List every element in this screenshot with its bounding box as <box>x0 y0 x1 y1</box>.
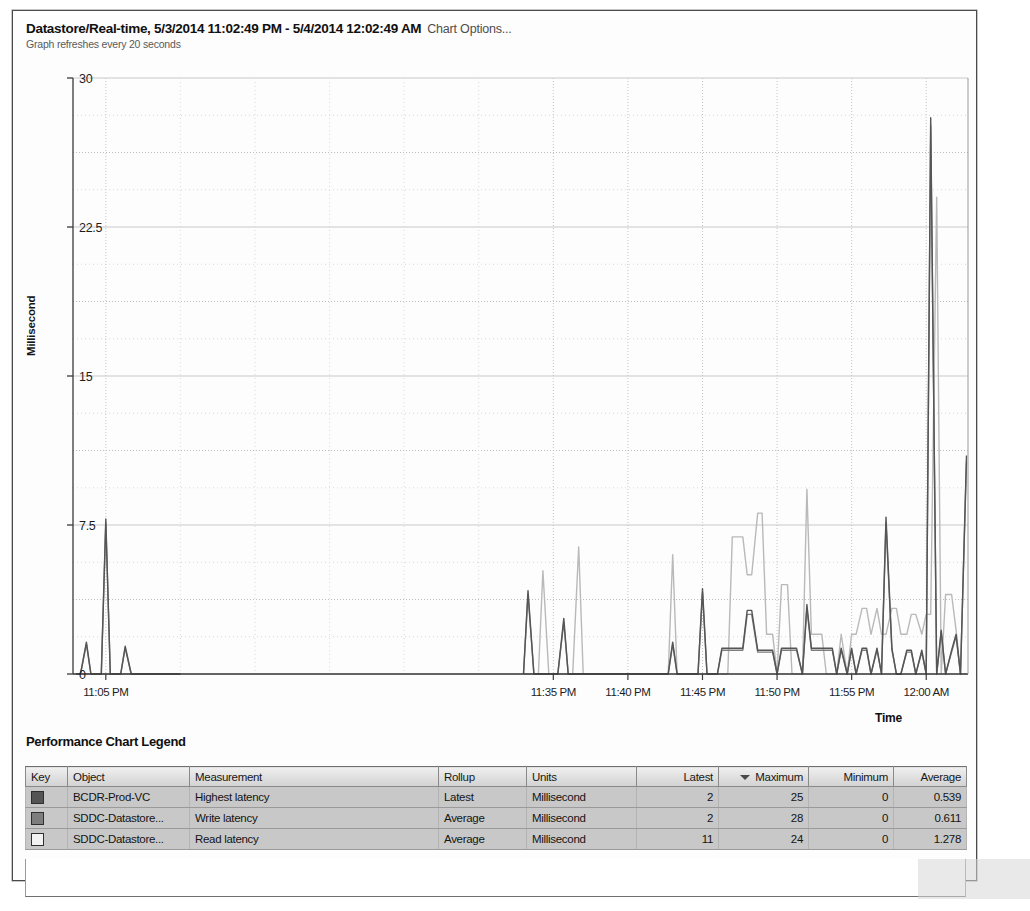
legend-body: BCDR-Prod-VCHighest latencyLatestMillise… <box>26 787 967 850</box>
y-tick-labels: 07.51522.530 <box>79 72 102 682</box>
x-tick-label: 11:55 PM <box>829 686 874 698</box>
series-color-swatch <box>31 791 44 804</box>
page-title: Datastore/Real-time, 5/3/2014 11:02:49 P… <box>26 21 421 36</box>
legend-latest-cell: 2 <box>637 787 719 808</box>
legend-column-label: Average <box>920 771 961 783</box>
legend-title: Performance Chart Legend <box>26 734 186 749</box>
legend-column-header-measurement[interactable]: Measurement <box>190 767 439 787</box>
chart-header: Datastore/Real-time, 5/3/2014 11:02:49 P… <box>26 21 956 50</box>
legend-column-label: Rollup <box>444 771 475 783</box>
legend-column-label: Key <box>31 771 50 783</box>
y-tick-label: 15 <box>79 370 93 384</box>
legend-units-cell: Millisecond <box>527 787 637 808</box>
y-tick-label: 22.5 <box>79 221 102 235</box>
legend-measurement-cell: Highest latency <box>190 787 439 808</box>
legend-rollup-cell: Latest <box>439 787 527 808</box>
refresh-note: Graph refreshes every 20 seconds <box>26 38 956 50</box>
legend-header-row: KeyObjectMeasurementRollupUnitsLatestMax… <box>26 767 967 787</box>
legend-column-header-rollup[interactable]: Rollup <box>439 767 527 787</box>
legend-key-cell[interactable] <box>26 808 68 829</box>
legend-column-header-average[interactable]: Average <box>894 767 967 787</box>
legend-average-cell: 0.539 <box>894 787 967 808</box>
legend-column-header-minimum[interactable]: Minimum <box>809 767 894 787</box>
legend-minimum-cell: 0 <box>809 829 894 850</box>
legend-column-label: Latest <box>683 771 713 783</box>
legend-column-label: Units <box>532 771 557 783</box>
legend-object-cell: SDDC-Datastore... <box>68 829 190 850</box>
legend-minimum-cell: 0 <box>809 787 894 808</box>
legend-average-cell: 0.611 <box>894 808 967 829</box>
series-layer <box>76 118 967 674</box>
series-color-swatch <box>31 812 44 825</box>
x-tick-label: 11:05 PM <box>83 686 128 698</box>
chart-region: Millisecond Time 07.51522.530 11:05 PM11… <box>13 56 978 736</box>
chart-options-link[interactable]: Chart Options... <box>427 22 511 36</box>
legend-units-cell: Millisecond <box>527 829 637 850</box>
legend-latest-cell: 2 <box>637 808 719 829</box>
y-tick-label: 7.5 <box>79 519 96 533</box>
legend-object-cell: BCDR-Prod-VC <box>68 787 190 808</box>
legend-key-cell[interactable] <box>26 787 68 808</box>
axis-layer <box>67 78 968 680</box>
legend-minimum-cell: 0 <box>809 808 894 829</box>
legend-column-header-units[interactable]: Units <box>527 767 637 787</box>
legend-column-header-maximum[interactable]: Maximum <box>719 767 809 787</box>
legend-key-cell[interactable] <box>26 829 68 850</box>
legend-maximum-cell: 28 <box>719 808 809 829</box>
legend-measurement-cell: Read latency <box>190 829 439 850</box>
legend-column-header-latest[interactable]: Latest <box>637 767 719 787</box>
legend-empty-area <box>25 859 966 897</box>
chart-title-line: Datastore/Real-time, 5/3/2014 11:02:49 P… <box>26 21 956 37</box>
legend-average-cell: 1.278 <box>894 829 967 850</box>
performance-line-chart: 07.51522.530 11:05 PM11:35 PM11:40 PM11:… <box>13 56 978 736</box>
legend-column-label: Maximum <box>755 771 803 783</box>
legend-object-cell: SDDC-Datastore... <box>68 808 190 829</box>
legend-maximum-cell: 25 <box>719 787 809 808</box>
x-tick-label: 11:45 PM <box>680 686 725 698</box>
x-tick-label: 11:40 PM <box>605 686 650 698</box>
x-tick-labels: 11:05 PM11:35 PM11:40 PM11:45 PM11:50 PM… <box>83 686 949 698</box>
legend-column-label: Object <box>73 771 104 783</box>
grid-layer <box>73 78 968 674</box>
table-row[interactable]: SDDC-Datastore...Read latencyAverageMill… <box>26 829 967 850</box>
performance-chart-legend-table: KeyObjectMeasurementRollupUnitsLatestMax… <box>25 766 967 850</box>
y-tick-label: 0 <box>79 668 86 682</box>
series-color-swatch <box>31 833 44 846</box>
x-tick-label: 12:00 AM <box>904 686 949 698</box>
legend-column-label: Measurement <box>195 771 262 783</box>
legend-latest-cell: 11 <box>637 829 719 850</box>
legend-maximum-cell: 24 <box>719 829 809 850</box>
legend-column-label: Minimum <box>843 771 888 783</box>
x-tick-label: 11:35 PM <box>531 686 576 698</box>
performance-chart-panel: Datastore/Real-time, 5/3/2014 11:02:49 P… <box>12 10 977 881</box>
legend-column-header-key[interactable]: Key <box>26 767 68 787</box>
legend-measurement-cell: Write latency <box>190 808 439 829</box>
sort-descending-icon <box>740 775 750 780</box>
table-row[interactable]: BCDR-Prod-VCHighest latencyLatestMillise… <box>26 787 967 808</box>
legend-rollup-cell: Average <box>439 829 527 850</box>
x-tick-label: 11:50 PM <box>754 686 799 698</box>
y-tick-label: 30 <box>79 72 93 86</box>
legend-rollup-cell: Average <box>439 808 527 829</box>
legend-units-cell: Millisecond <box>527 808 637 829</box>
legend-column-header-object[interactable]: Object <box>68 767 190 787</box>
table-row[interactable]: SDDC-Datastore...Write latencyAverageMil… <box>26 808 967 829</box>
